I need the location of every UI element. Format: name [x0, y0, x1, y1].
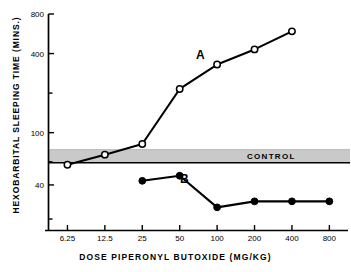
- data-point-b-25: [139, 177, 146, 184]
- data-point-a-12.5: [102, 151, 108, 157]
- control-band: [48, 150, 350, 164]
- x-tick-label-200: 200: [248, 234, 261, 243]
- y-axis-title-text: HEXOBARBITAL SLEEPING TIME (MINS.): [11, 17, 21, 214]
- series-line-a: [67, 31, 291, 164]
- chart-plot-area: [0, 0, 351, 272]
- data-point-a-50: [176, 86, 182, 92]
- data-point-b-400: [289, 198, 296, 205]
- data-point-b-800: [326, 198, 333, 205]
- x-tick-label-50: 50: [175, 234, 184, 243]
- x-tick-label-100: 100: [210, 234, 223, 243]
- data-point-a-6.25: [64, 162, 70, 168]
- x-tick-label-400: 400: [285, 234, 298, 243]
- x-tick-label-800: 800: [323, 234, 336, 243]
- series-label-a: A: [196, 48, 205, 62]
- control-band-label: CONTROL: [247, 152, 296, 161]
- chart-figure: 80040010040 6.2512.52550100200400800 HEX…: [0, 0, 351, 272]
- x-tick-label-25: 25: [138, 234, 147, 243]
- data-point-a-25: [139, 141, 145, 147]
- series-line-b: [142, 176, 329, 208]
- x-tick-label-6.25: 6.25: [60, 234, 76, 243]
- control-band-group: [48, 150, 350, 164]
- x-tick-label-12.5: 12.5: [97, 234, 113, 243]
- data-point-a-200: [251, 46, 257, 52]
- x-axis-title: DOSE PIPERONYL BUTOXIDE (MG/KG): [0, 252, 351, 262]
- data-point-a-100: [214, 61, 220, 67]
- data-point-b-200: [251, 198, 258, 205]
- series-label-b: B: [180, 172, 189, 186]
- data-point-a-400: [289, 28, 295, 34]
- axis-lines: [45, 14, 348, 231]
- data-point-b-100: [214, 204, 221, 211]
- y-axis-title: HEXOBARBITAL SLEEPING TIME (MINS.): [9, 15, 23, 215]
